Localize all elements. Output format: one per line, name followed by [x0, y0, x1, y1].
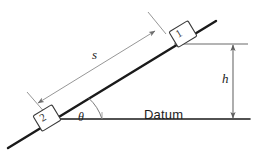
slope-dimension-line — [38, 31, 155, 103]
block-state-2 — [33, 105, 61, 132]
diagram-canvas — [0, 0, 256, 157]
angle-label: θ — [78, 111, 84, 123]
block-state-1 — [169, 21, 197, 48]
datum-label: Datum — [144, 108, 183, 121]
height-label: h — [222, 72, 229, 85]
block-1-rect — [169, 21, 197, 48]
angle-arc — [89, 98, 103, 119]
inclined-plane-diagram: s h θ Datum 1 2 — [0, 0, 256, 157]
block-2-rect — [33, 105, 61, 132]
slope-length-label: s — [92, 48, 97, 61]
slope-extension-line-upper — [148, 12, 166, 34]
